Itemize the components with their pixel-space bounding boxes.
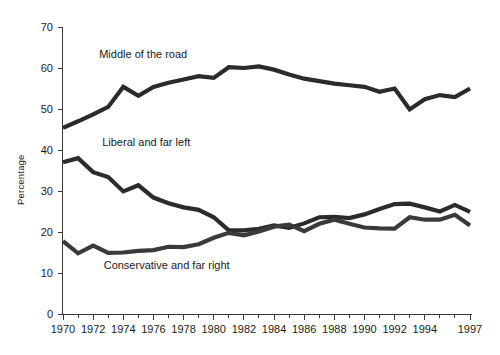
y-tick-label: 10: [41, 267, 53, 279]
x-tick-label: 1982: [232, 323, 256, 335]
x-tick-label: 1970: [51, 323, 75, 335]
y-tick-label: 20: [41, 226, 53, 238]
y-tick-label: 0: [47, 308, 53, 320]
x-axis-ticks: 1970197219741976197819801982198419861988…: [51, 315, 482, 336]
x-tick-label: 1997: [458, 323, 482, 335]
chart-container: 010203040506070 197019721974197619781980…: [0, 0, 500, 355]
series-label-2: Conservative and far right: [104, 259, 230, 271]
y-tick-label: 70: [41, 21, 53, 33]
series-lines: [63, 66, 470, 253]
y-tick-label: 30: [41, 185, 53, 197]
y-axis: 010203040506070: [41, 21, 63, 320]
series-label-1: Liberal and far left: [102, 136, 190, 148]
series-line-0: [63, 66, 470, 128]
series-line-2: [63, 215, 470, 254]
x-tick-label: 1988: [322, 323, 346, 335]
x-tick-label: 1990: [352, 323, 376, 335]
x-tick-label: 1980: [201, 323, 225, 335]
x-tick-label: 1984: [262, 323, 286, 335]
line-chart: 010203040506070 197019721974197619781980…: [0, 0, 500, 355]
x-tick-label: 1986: [292, 323, 316, 335]
x-tick-label: 1972: [81, 323, 105, 335]
y-tick-label: 50: [41, 103, 53, 115]
x-tick-label: 1974: [111, 323, 135, 335]
x-tick-label: 1978: [171, 323, 195, 335]
series-label-0: Middle of the road: [99, 48, 187, 60]
y-axis-title: Percentage: [15, 154, 26, 205]
x-axis: 1970197219741976197819801982198419861988…: [51, 315, 482, 336]
x-tick-label: 1994: [413, 323, 437, 335]
y-axis-ticks: 010203040506070: [41, 21, 63, 320]
x-tick-label: 1992: [382, 323, 406, 335]
x-tick-label: 1976: [141, 323, 165, 335]
y-tick-label: 60: [41, 62, 53, 74]
y-tick-label: 40: [41, 144, 53, 156]
